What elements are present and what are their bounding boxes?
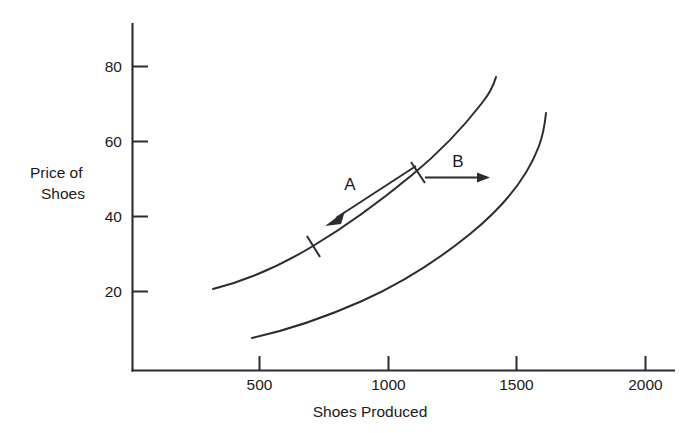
annotation-a-arrow-head	[325, 211, 345, 226]
x-tick-label-2000: 2000	[628, 376, 663, 393]
x-tick-label-1000: 1000	[371, 376, 406, 393]
chart-canvas: 80 60 40 20 500 1000 1500 2000 Price of …	[0, 0, 688, 433]
supply-curve-figure: 80 60 40 20 500 1000 1500 2000 Price of …	[0, 0, 688, 433]
marker-cross-lower	[307, 236, 320, 257]
y-tick-label-20: 20	[105, 283, 123, 300]
y-tick-group: 80 60 40 20	[105, 58, 148, 300]
y-tick-label-60: 60	[105, 133, 123, 150]
curve-markers-group	[307, 162, 425, 257]
curves-group	[213, 77, 546, 338]
y-axis-title-line2: Shoes	[41, 185, 85, 202]
y-axis-title-line1: Price of	[30, 164, 83, 181]
y-tick-label-40: 40	[105, 208, 123, 225]
supply-curve-2	[252, 113, 546, 338]
annotation-a-group: A	[325, 166, 416, 226]
axes-group	[133, 24, 675, 371]
axis-titles-group: Price of Shoes Shoes Produced	[30, 164, 427, 420]
x-tick-group: 500 1000 1500 2000	[247, 356, 664, 393]
annotation-b-label: B	[452, 152, 463, 171]
y-tick-label-80: 80	[105, 58, 123, 75]
annotation-a-label: A	[344, 175, 356, 194]
x-axis-title: Shoes Produced	[313, 403, 428, 420]
x-tick-label-500: 500	[247, 376, 273, 393]
annotation-b-group: B	[425, 152, 490, 183]
x-tick-label-1500: 1500	[499, 376, 534, 393]
annotation-b-arrow-head	[477, 173, 490, 183]
